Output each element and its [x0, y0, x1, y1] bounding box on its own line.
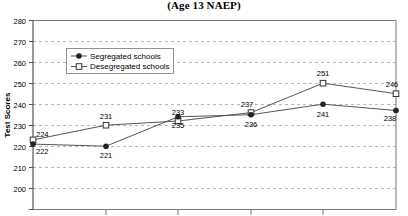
- legend-label-desegregated: Desegregated schools: [90, 62, 170, 71]
- point-label-seg-6: 238: [384, 114, 397, 123]
- series-line-desegregated: [33, 83, 396, 140]
- x-axis-ticks: [106, 210, 323, 216]
- open-square-icon: [76, 64, 82, 70]
- filled-circle-icon: [76, 53, 82, 59]
- y-tick-label-220: 220: [13, 143, 26, 152]
- point-label-seg-3: 235: [172, 121, 185, 130]
- y-tick-label-250: 250: [13, 80, 26, 89]
- point-label-seg-2: 221: [100, 151, 113, 160]
- y-tick-label-260: 260: [13, 59, 26, 68]
- point-label-seg-5: 241: [317, 110, 330, 119]
- point-label-deseg-6: 246: [386, 80, 399, 89]
- legend-label-segregated: Segregated schools: [90, 52, 161, 61]
- y-tick-label-270: 270: [13, 38, 26, 47]
- y-tick-label-280: 280: [13, 17, 26, 26]
- chart-legend: Segregated schools Desegregated schools: [67, 49, 174, 74]
- y-axis-title: Test Scores: [3, 92, 12, 137]
- chart-plot-area: 280 270 260 250 240 230 220 210 200 Test…: [0, 0, 408, 215]
- point-label-deseg-4: 237: [241, 100, 254, 109]
- point-label-deseg-2: 231: [100, 112, 113, 121]
- point-label-deseg-3: 233: [172, 108, 185, 117]
- y-tick-label-200: 200: [13, 185, 26, 194]
- series-markers-desegregated: [30, 80, 399, 142]
- y-tick-label-230: 230: [13, 122, 26, 131]
- point-label-seg-4: 236: [245, 120, 258, 129]
- point-label-seg-1: 222: [36, 147, 49, 156]
- y-tick-label-210: 210: [13, 164, 26, 173]
- y-tick-label-240: 240: [13, 101, 26, 110]
- point-label-deseg-5: 251: [317, 69, 330, 78]
- chart-root: (Age 13 NAEP): [0, 0, 408, 215]
- point-label-deseg-1: 224: [36, 130, 49, 139]
